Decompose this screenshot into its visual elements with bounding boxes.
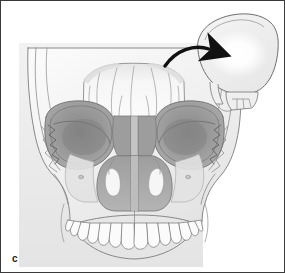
right-mandible-ramus (205, 204, 208, 242)
left-inferior-turbinate (105, 168, 120, 196)
left-ethmoid-air-cells (113, 116, 131, 156)
lateral-skull-maxilla (226, 92, 258, 110)
right-orbit-shadow (163, 119, 207, 155)
tooth (147, 223, 160, 247)
figure-inner-frame: c (4, 4, 281, 269)
nasal-cavity (97, 156, 172, 211)
panel-label: c (12, 254, 18, 264)
left-infraorbital-foramen (79, 175, 84, 179)
tooth (134, 223, 148, 249)
skull-illustration (4, 4, 281, 269)
tooth (109, 223, 122, 247)
figure-panel: c (0, 0, 285, 273)
nasal-septum-body (131, 156, 138, 211)
ethmoid-midline-column (131, 116, 138, 156)
left-orbit-shadow (62, 119, 106, 155)
tooth (121, 223, 135, 249)
illumination-glow (208, 30, 268, 78)
right-ethmoid-air-cells (138, 116, 156, 156)
right-infraorbital-foramen (186, 175, 191, 179)
right-inferior-turbinate (149, 168, 164, 196)
